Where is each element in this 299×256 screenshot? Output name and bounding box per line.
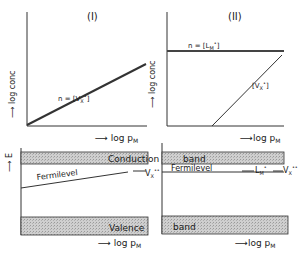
curve-label-n-lm: n = [LM•] (188, 40, 220, 51)
arrow-right-icon: ⟶ (235, 238, 248, 248)
energy-axis-label: ⟶ E (5, 153, 14, 172)
valence-label: Valence (109, 223, 145, 233)
conduction-band (162, 152, 284, 164)
panel-i-band-diagram: Conduction Valence Fermilevel ⟶ E ⟶ log … (5, 148, 159, 249)
arrow-right-icon: ⟶ (240, 133, 253, 143)
conduction-label: band (183, 154, 206, 164)
arrow-up-icon: ⟶ (8, 104, 17, 118)
y-axis-label: ⟶ log conc (148, 60, 157, 108)
conduction-label: Conduction (108, 154, 159, 164)
x-axis-label: ⟶ log pM (98, 238, 141, 249)
valence-label: band (173, 222, 196, 232)
arrow-right-icon: ⟶ (95, 133, 111, 143)
panel-ii-title: (II) (228, 11, 242, 22)
fermi-level-label: Fermilevel (171, 164, 212, 173)
defect-band-diagram: (I) ⟶ log conc n = [VX•] ⟶ log pM (II) ⟶… (0, 0, 299, 256)
panel-ii-band-diagram: band band Fermilevel LM• VX•• ⟶log pM (162, 143, 298, 249)
panel-i-concentration-plot: (I) ⟶ log conc n = [VX•] ⟶ log pM (8, 11, 147, 144)
vx-level-label: VX•• (145, 167, 160, 179)
panel-i-title: (I) (87, 11, 98, 22)
arrow-right-icon: ⟶ (98, 238, 114, 248)
lm-level-label: LM• (255, 164, 267, 176)
curve-label-vx: [VX•] (252, 80, 269, 91)
vx-level-label: VX•• (283, 164, 298, 176)
panel-ii-concentration-plot: (II) ⟶ log conc n = [LM•] [VX•] ⟶log pM (148, 11, 284, 144)
x-axis-label: ⟶ log pM (95, 133, 138, 144)
arrow-up-icon: ⟶ (148, 94, 157, 108)
curve-label-n-vx: n = [VX•] (58, 93, 90, 104)
y-axis-label: ⟶ log conc (8, 70, 17, 118)
arrow-up-icon: ⟶ (5, 158, 14, 172)
x-axis-label: ⟶log pM (235, 238, 275, 249)
x-axis-label: ⟶log pM (240, 133, 280, 144)
vx-line (212, 55, 282, 126)
